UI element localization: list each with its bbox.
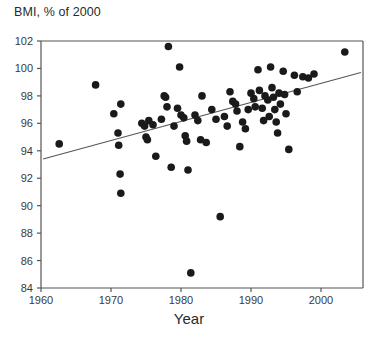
data-point (250, 95, 258, 103)
data-point (152, 152, 160, 160)
data-point (183, 137, 191, 145)
data-point (165, 43, 173, 51)
data-point (198, 92, 206, 100)
data-point (174, 104, 182, 112)
data-point (310, 70, 318, 78)
data-point (117, 190, 125, 198)
data-point (149, 121, 157, 129)
y-tick-label: 94 (21, 145, 33, 157)
x-tick-label: 1970 (99, 294, 123, 306)
y-axis-tick-labels: 8486889092949698100102 (15, 35, 33, 294)
data-point (236, 143, 244, 151)
data-point (281, 91, 289, 99)
x-tick-label: 1990 (239, 294, 263, 306)
data-point (256, 87, 264, 95)
data-point (285, 146, 293, 154)
data-points (55, 43, 348, 277)
data-point (274, 129, 282, 137)
data-point (184, 166, 192, 174)
data-point (187, 269, 195, 277)
x-tick-label: 2000 (309, 294, 333, 306)
data-point (293, 88, 301, 96)
data-point (167, 163, 175, 171)
data-point (163, 103, 171, 111)
x-tick-label: 1980 (169, 294, 193, 306)
data-point (233, 107, 241, 115)
data-point (282, 110, 290, 118)
data-point (110, 110, 118, 118)
y-tick-label: 100 (15, 62, 33, 74)
data-point (114, 129, 122, 137)
data-point (239, 118, 247, 126)
data-point (226, 88, 234, 96)
y-tick-label: 98 (21, 90, 33, 102)
data-point (267, 63, 275, 71)
data-point (212, 115, 220, 123)
y-tick-label: 90 (21, 200, 33, 212)
data-point (117, 100, 125, 108)
data-point (116, 170, 124, 178)
y-tick-label: 84 (21, 282, 33, 294)
data-point (277, 100, 285, 108)
data-point (55, 140, 63, 148)
trend-line (43, 73, 361, 159)
y-tick-label: 86 (21, 255, 33, 267)
x-tick-label: 1960 (29, 294, 53, 306)
data-point (202, 139, 210, 147)
x-axis-label: Year (0, 310, 378, 327)
data-point (92, 81, 100, 89)
plot-frame (41, 41, 363, 288)
data-point (158, 115, 166, 123)
data-point (144, 136, 152, 144)
data-point (268, 84, 276, 92)
data-point (242, 125, 250, 133)
data-point (244, 106, 252, 114)
x-axis-tick-labels: 19601970198019902000 (29, 294, 333, 306)
data-point (265, 113, 273, 121)
chart-figure: BMI, % of 2000 8486889092949698100102 19… (0, 0, 378, 344)
y-tick-label: 102 (15, 35, 33, 47)
data-point (208, 106, 216, 114)
data-point (291, 72, 299, 80)
data-point (115, 141, 123, 149)
data-point (180, 114, 188, 122)
scatter-plot: 8486889092949698100102 19601970198019902… (0, 0, 378, 344)
data-point (254, 66, 262, 74)
y-tick-label: 88 (21, 227, 33, 239)
data-point (216, 213, 224, 221)
data-point (341, 48, 349, 56)
trend-line-segment (43, 73, 361, 159)
data-point (221, 113, 229, 121)
y-tick-label: 92 (21, 172, 33, 184)
data-point (170, 122, 178, 130)
data-point (223, 122, 231, 130)
data-point (232, 100, 240, 108)
data-point (272, 118, 280, 126)
data-point (258, 104, 266, 112)
y-tick-label: 96 (21, 117, 33, 129)
data-point (271, 106, 279, 114)
data-point (176, 63, 184, 71)
data-point (162, 93, 170, 101)
data-point (194, 117, 202, 125)
data-point (279, 67, 287, 75)
data-point (251, 103, 259, 111)
